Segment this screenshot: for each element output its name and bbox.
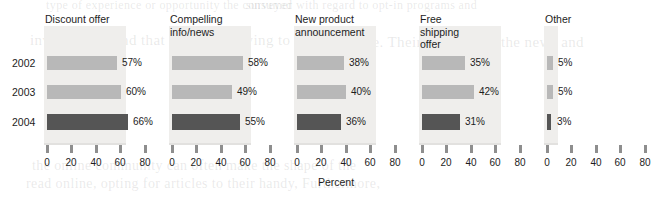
x-tick-label: 20 <box>437 157 455 168</box>
bar-2004 <box>422 114 460 130</box>
x-tick-label: 20 <box>562 157 580 168</box>
bar-value-2003: 49% <box>237 86 257 97</box>
panel-other: Other 5% 5% 3% 0 20 40 60 80 <box>0 0 130 199</box>
x-tick <box>570 145 573 153</box>
x-tick <box>369 145 372 153</box>
x-axis-line <box>294 143 376 145</box>
x-tick <box>519 145 522 153</box>
x-tick-label: 40 <box>587 157 605 168</box>
x-tick-label: 40 <box>212 157 230 168</box>
x-tick <box>619 145 622 153</box>
multi-panel-bar-chart: 2002 2003 2004 Discount offer 57% 60% 66… <box>0 0 668 199</box>
x-tick-label: 0 <box>288 157 306 168</box>
x-tick-label: 0 <box>538 157 556 168</box>
bar-value-2003: 42% <box>479 86 499 97</box>
bar-2002 <box>172 56 243 70</box>
bar-2002 <box>297 56 344 70</box>
x-tick <box>421 145 424 153</box>
x-tick-label: 60 <box>361 157 379 168</box>
bar-2004 <box>297 114 341 130</box>
bar-value-2004: 66% <box>133 116 153 127</box>
x-tick-label: 0 <box>413 157 431 168</box>
bar-value-2002: 5% <box>558 57 572 68</box>
x-tick <box>644 145 647 153</box>
bar-2003 <box>422 85 474 99</box>
bar-2004 <box>547 114 551 130</box>
x-axis-title: Percent <box>296 176 376 188</box>
x-tick <box>320 145 323 153</box>
x-tick <box>345 145 348 153</box>
x-tick <box>269 145 272 153</box>
x-tick-label: 60 <box>611 157 629 168</box>
x-tick-label: 20 <box>312 157 330 168</box>
x-tick <box>470 145 473 153</box>
bar-value-2003: 5% <box>558 86 572 97</box>
x-tick <box>171 145 174 153</box>
bar-2003 <box>297 85 346 99</box>
x-tick <box>494 145 497 153</box>
bar-2002 <box>547 56 553 70</box>
bar-2002 <box>422 56 465 70</box>
bar-value-2004: 55% <box>245 116 265 127</box>
bar-value-2004: 31% <box>465 116 485 127</box>
bar-2003 <box>547 85 553 99</box>
x-tick-label: 80 <box>386 157 404 168</box>
bar-2003 <box>172 85 232 99</box>
x-tick <box>296 145 299 153</box>
x-tick <box>220 145 223 153</box>
x-tick <box>195 145 198 153</box>
x-axis-line <box>419 143 501 145</box>
bar-2004 <box>172 114 240 130</box>
bar-value-2004: 36% <box>346 116 366 127</box>
x-tick <box>595 145 598 153</box>
x-tick-label: 80 <box>261 157 279 168</box>
x-tick-label: 40 <box>462 157 480 168</box>
x-axis-line <box>169 143 251 145</box>
bar-value-2002: 58% <box>248 57 268 68</box>
x-tick <box>144 145 147 153</box>
bar-value-2003: 40% <box>351 86 371 97</box>
x-tick <box>244 145 247 153</box>
x-tick-label: 60 <box>486 157 504 168</box>
x-tick <box>445 145 448 153</box>
bar-value-2002: 38% <box>349 57 369 68</box>
x-tick-label: 80 <box>511 157 529 168</box>
panel-title: Other <box>545 13 571 26</box>
x-tick-label: 40 <box>337 157 355 168</box>
bar-value-2002: 35% <box>470 57 490 68</box>
x-tick-label: 20 <box>187 157 205 168</box>
panel-title: Free shipping offer <box>420 13 459 51</box>
x-tick-label: 80 <box>136 157 154 168</box>
panel-title: Compelling info/news <box>170 13 223 38</box>
x-tick-label: 0 <box>163 157 181 168</box>
bar-value-2004: 3% <box>557 116 571 127</box>
x-tick <box>394 145 397 153</box>
x-tick-label: 80 <box>636 157 654 168</box>
x-tick-label: 60 <box>236 157 254 168</box>
panel-title: New product announcement <box>295 13 364 38</box>
x-tick <box>546 145 549 153</box>
